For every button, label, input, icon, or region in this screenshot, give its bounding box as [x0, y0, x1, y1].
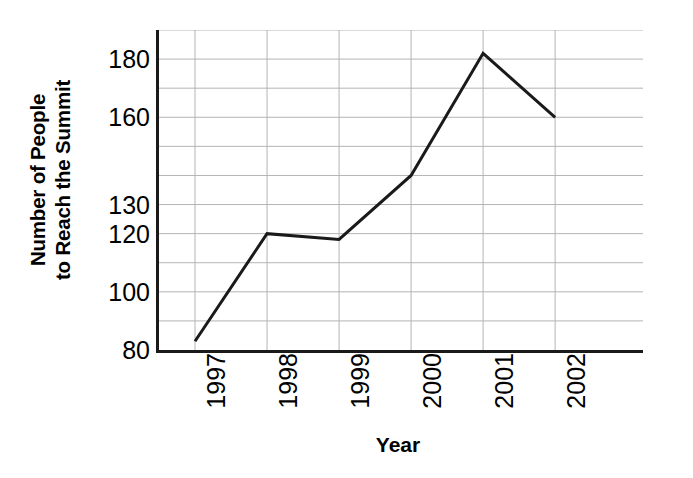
x-axis-tick-label: 1997	[204, 353, 229, 409]
y-axis-title-text: Number of People to Reach the Summit	[25, 80, 75, 280]
x-axis-tick-label: 2000	[420, 353, 445, 409]
y-axis-tick-label: 120	[108, 221, 150, 246]
y-axis-tick-labels: 18016013012010080	[96, 0, 154, 478]
y-axis-tick-label: 100	[108, 279, 150, 304]
y-axis-tick-label: 180	[108, 47, 150, 72]
line-chart: Number of People to Reach the Summit 180…	[0, 0, 693, 478]
x-axis-tick-label: 1999	[348, 353, 373, 409]
x-axis-tick-label: 2001	[492, 353, 517, 409]
y-axis-tick-label: 80	[122, 338, 150, 363]
y-axis-tick-label: 160	[108, 105, 150, 130]
data-series-line	[195, 53, 555, 341]
x-axis-tick-label: 2002	[564, 353, 589, 409]
y-axis-title: Number of People to Reach the Summit	[0, 0, 100, 360]
x-axis-tick-label: 1998	[276, 353, 301, 409]
y-axis-title-line-1: Number of People	[25, 80, 50, 280]
x-axis-title: Year	[156, 433, 640, 457]
x-axis-tick-labels: 199719981999200020012002	[156, 353, 640, 431]
y-axis-tick-label: 130	[108, 192, 150, 217]
plot-svg	[159, 30, 643, 350]
horizontal-gridlines	[159, 30, 643, 321]
vertical-gridlines	[195, 30, 555, 350]
plot-area	[156, 30, 643, 353]
y-axis-title-line-2: to Reach the Summit	[50, 80, 75, 280]
